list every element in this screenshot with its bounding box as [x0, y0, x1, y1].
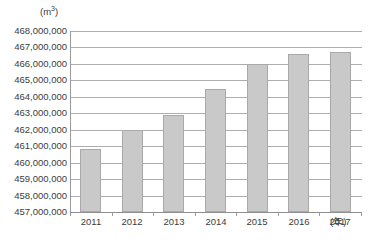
x-axis-tick-label-2013: 2013 — [154, 216, 194, 228]
bar-2015[interactable] — [247, 64, 268, 212]
x-axis-tick — [112, 212, 113, 216]
x-axis-tick — [70, 212, 71, 216]
y-axis-tick-label: 459,000,000 — [3, 174, 67, 184]
bar-2012[interactable] — [122, 130, 143, 212]
y-axis-tick-label: 467,000,000 — [3, 42, 67, 52]
x-axis-tick — [153, 212, 154, 216]
x-axis-tick — [278, 212, 279, 216]
bar-chart: 468,000,000467,000,000466,000,000465,000… — [0, 0, 374, 247]
bar-2017[interactable] — [330, 52, 351, 212]
x-axis-tick-label-2016: 2016 — [279, 216, 319, 228]
bar-series — [70, 31, 361, 212]
x-axis-tick-label-2015: 2015 — [237, 216, 277, 228]
x-axis-tick — [195, 212, 196, 216]
x-axis-tick — [361, 212, 362, 216]
y-axis-tick-label: 457,000,000 — [3, 207, 67, 217]
bar-2016[interactable] — [288, 54, 309, 212]
x-axis-tick-labels: 2011201220132014201520162017 — [70, 216, 361, 236]
x-axis-tick — [319, 212, 320, 216]
x-axis-tick-label-2012: 2012 — [112, 216, 152, 228]
x-axis-unit-label: (年) — [330, 216, 346, 228]
bar-2014[interactable] — [205, 89, 226, 212]
y-axis-tick-label: 466,000,000 — [3, 59, 67, 69]
y-axis-tick-label: 460,000,000 — [3, 158, 67, 168]
bar-2013[interactable] — [163, 115, 184, 212]
y-axis-tick-label: 463,000,000 — [3, 108, 67, 118]
x-axis-tick-label-2011: 2011 — [71, 216, 111, 228]
y-axis-tick-labels: 468,000,000467,000,000466,000,000465,000… — [0, 0, 67, 247]
y-axis-tick-label: 464,000,000 — [3, 92, 67, 102]
x-axis-tick-label-2014: 2014 — [196, 216, 236, 228]
bar-2011[interactable] — [80, 149, 101, 212]
y-axis-tick-label: 465,000,000 — [3, 75, 67, 85]
y-axis-tick-label: 462,000,000 — [3, 125, 67, 135]
y-axis-tick-label: 458,000,000 — [3, 191, 67, 201]
x-axis-tick — [236, 212, 237, 216]
y-axis-tick-label: 468,000,000 — [3, 26, 67, 36]
y-axis-tick-label: 461,000,000 — [3, 141, 67, 151]
